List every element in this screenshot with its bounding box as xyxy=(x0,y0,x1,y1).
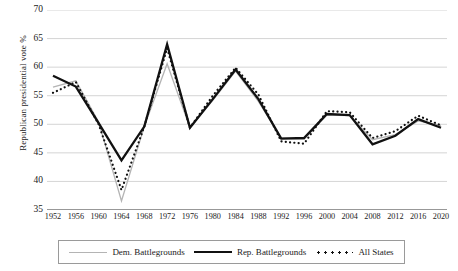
thin-line-swatch xyxy=(69,252,107,253)
series-all-states xyxy=(53,48,441,190)
y-tick-40: 40 xyxy=(21,176,43,186)
series-rep-battlegrounds xyxy=(53,44,441,160)
chart-svg xyxy=(47,10,447,210)
dotted-line-swatch xyxy=(315,251,353,254)
legend-label: All States xyxy=(358,247,393,257)
x-tick-2020: 2020 xyxy=(426,212,456,223)
x-axis-tick-labels: 1952195619601964196819721976198019841988… xyxy=(47,212,447,228)
chart-legend: Dem. BattlegroundsRep. BattlegroundsAll … xyxy=(58,240,405,264)
legend-label: Dem. Battlegrounds xyxy=(112,247,185,257)
legend-item-dem-battlegrounds[interactable]: Dem. Battlegrounds xyxy=(69,247,185,257)
y-tick-50: 50 xyxy=(21,119,43,129)
republican-vote-share-line-chart: Republican presidential vote % 354045505… xyxy=(0,0,458,271)
y-axis-tick-labels: 3540455055606570 xyxy=(19,10,43,210)
plot-area xyxy=(47,10,447,210)
y-tick-45: 45 xyxy=(21,148,43,158)
legend-item-all-states[interactable]: All States xyxy=(315,247,393,257)
y-tick-60: 60 xyxy=(21,62,43,72)
legend-label: Rep. Battlegrounds xyxy=(237,247,307,257)
thick-line-swatch xyxy=(194,251,232,253)
y-tick-55: 55 xyxy=(21,91,43,101)
y-tick-70: 70 xyxy=(21,5,43,15)
y-tick-65: 65 xyxy=(21,34,43,44)
legend-item-rep-battlegrounds[interactable]: Rep. Battlegrounds xyxy=(194,247,307,257)
